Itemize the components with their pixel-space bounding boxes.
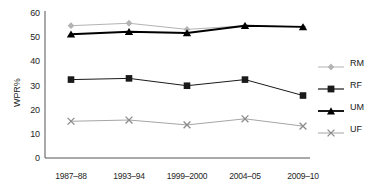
chart-legend: RM RF UM: [318, 58, 364, 134]
data-point-rm-1: [126, 20, 133, 27]
legend-item-um: UM: [318, 102, 364, 112]
data-point-rf-3: [242, 76, 249, 83]
legend-marker-square-icon: [318, 80, 344, 90]
series-layer: [67, 20, 307, 130]
legend-label-rf: RF: [350, 80, 362, 90]
data-point-rf-0: [68, 76, 75, 83]
legend-item-rf: RF: [318, 80, 364, 90]
data-point-rm-0: [68, 22, 75, 29]
legend-label-um: UM: [350, 102, 364, 112]
legend-item-uf: UF: [318, 124, 364, 134]
legend-label-uf: UF: [350, 124, 362, 134]
chart-container: WPR% 60 50 40 30 20 10 0 1987–88 1993–94…: [0, 0, 374, 194]
legend-marker-triangle-icon: [318, 102, 344, 112]
data-point-rf-2: [184, 82, 191, 89]
legend-marker-x-icon: [318, 124, 344, 134]
series-rf: [68, 75, 307, 99]
series-uf: [68, 115, 307, 129]
legend-label-rm: RM: [350, 58, 364, 68]
data-point-rf-4: [300, 92, 307, 99]
legend-item-rm: RM: [318, 58, 364, 68]
data-point-rf-1: [126, 75, 133, 82]
legend-marker-diamond-icon: [318, 58, 344, 68]
